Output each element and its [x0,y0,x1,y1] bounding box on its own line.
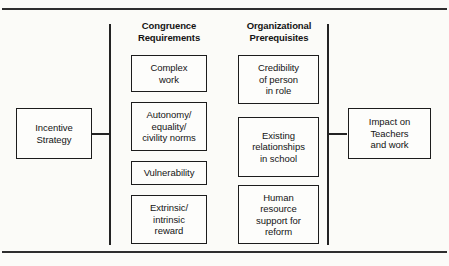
node-complex-work: Complexwork [131,55,207,92]
node-human-resource-support-for-reform: Humanresourcesupport forreform [238,185,319,244]
column-heading-congruence: CongruenceRequirements [124,20,214,43]
figure-bottom-rule [2,251,447,253]
node-existing-relationships-in-school: Existingrelationshipsin school [238,117,319,177]
connector-columns-to-impact [327,133,347,135]
node-extrinsic-intrinsic-reward: Extrinsic/intrinsicreward [131,195,207,244]
figure-top-rule [2,8,447,10]
connector-incentive-to-columns [91,133,111,135]
column-heading-organizational: OrganizationalPrerequisites [231,20,327,43]
node-vulnerability: Vulnerability [131,161,207,185]
figure-container: CongruenceRequirements OrganizationalPre… [0,0,449,266]
node-autonomy-equality-civility-norms: Autonomy/equality/civility norms [131,102,207,151]
node-impact-on-teachers: Impact onTeachersand work [348,108,431,159]
node-credibility-of-person-in-role: Credibilityof personin role [238,55,319,104]
node-incentive-strategy: IncentiveStrategy [16,108,92,159]
